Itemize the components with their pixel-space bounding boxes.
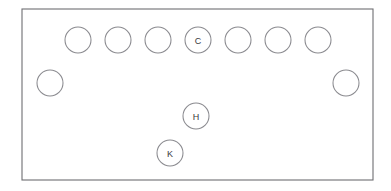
seating-diagram: CHK [0,0,391,191]
seat-circle-top-2[interactable] [105,27,131,53]
seat-top-4[interactable]: C [185,27,211,53]
seat-label-interior-k: K [167,149,173,159]
seat-top-5[interactable] [225,27,251,53]
seat-circle-top-6[interactable] [265,27,291,53]
seat-top-1[interactable] [65,27,91,53]
seat-top-7[interactable] [305,27,331,53]
seat-top-2[interactable] [105,27,131,53]
seat-circle-side-right[interactable] [333,70,359,96]
seat-side-right[interactable] [333,70,359,96]
seat-side-left[interactable] [37,70,63,96]
seat-circle-side-left[interactable] [37,70,63,96]
seat-circle-top-1[interactable] [65,27,91,53]
seat-interior-k[interactable]: K [157,140,183,166]
seat-top-3[interactable] [145,27,171,53]
diagram-canvas: CHK [0,0,391,191]
seat-circle-top-3[interactable] [145,27,171,53]
seat-interior-h[interactable]: H [183,103,209,129]
seat-label-top-4: C [195,36,202,46]
seat-label-interior-h: H [193,112,200,122]
seat-circle-top-7[interactable] [305,27,331,53]
seat-circle-top-5[interactable] [225,27,251,53]
seat-top-6[interactable] [265,27,291,53]
